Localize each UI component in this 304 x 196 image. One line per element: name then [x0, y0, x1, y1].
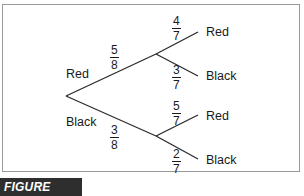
denominator: 7 — [173, 114, 180, 127]
probability-black-first: 3 8 — [110, 124, 119, 151]
outcome-label-black: Black — [66, 116, 97, 129]
outcome-label-red-black: Black — [206, 70, 237, 83]
probability-tree-lines — [0, 0, 304, 196]
denominator: 7 — [173, 29, 180, 42]
numerator: 5 — [172, 100, 181, 114]
numerator: 2 — [172, 148, 181, 162]
denominator: 7 — [173, 78, 180, 91]
outcome-label-black-red: Red — [206, 110, 229, 123]
probability-black-black: 2 7 — [172, 148, 181, 175]
probability-red-red: 4 7 — [172, 15, 181, 42]
denominator: 8 — [111, 58, 118, 71]
outcome-label-red-red: Red — [206, 26, 229, 39]
outcome-label-red: Red — [66, 68, 89, 81]
probability-red-first: 5 8 — [110, 44, 119, 71]
numerator: 3 — [110, 124, 119, 138]
probability-red-black: 3 7 — [172, 64, 181, 91]
numerator: 3 — [172, 64, 181, 78]
outcome-label-black-black: Black — [206, 154, 237, 167]
denominator: 7 — [173, 162, 180, 175]
figure-caption: FIGURE 15.11 — [0, 178, 82, 196]
probability-black-red: 5 7 — [172, 100, 181, 127]
numerator: 5 — [110, 44, 119, 58]
numerator: 4 — [172, 15, 181, 29]
denominator: 8 — [111, 138, 118, 151]
